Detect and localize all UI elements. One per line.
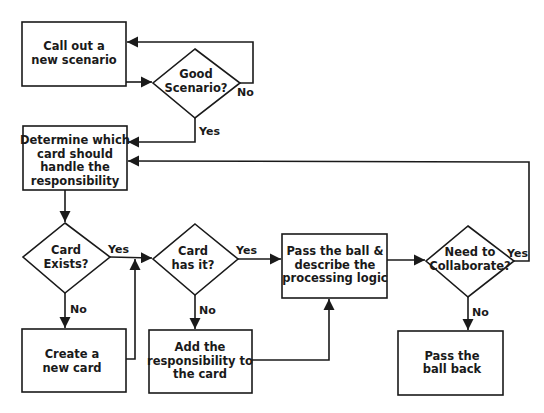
node-label: card should (37, 147, 113, 161)
node-label: Pass the ball & (287, 244, 384, 258)
node-label: Add the (175, 340, 226, 354)
node-card-has-it-decision: Card has it? (153, 224, 238, 295)
edges (65, 42, 529, 360)
node-label: Create a (45, 347, 100, 361)
node-create-card: Create a new card (22, 329, 126, 392)
node-label: Good (179, 67, 212, 81)
node-label: Need to (445, 245, 496, 259)
node-pass-ball-describe: Pass the ball & describe the processing … (282, 234, 388, 298)
node-label: responsibility (31, 174, 120, 188)
node-card-exists-decision: Card Exists? (23, 223, 110, 293)
node-label: Card (178, 244, 208, 258)
node-pass-ball-back: Pass the ball back (398, 331, 503, 395)
node-label: Determine which (20, 133, 130, 147)
edge-label-exists-yes: Yes (107, 243, 129, 256)
node-label: Collaborate? (429, 259, 511, 273)
edge-label-good-yes: Yes (198, 125, 220, 138)
node-call-out-scenario: Call out a new scenario (22, 22, 126, 86)
node-label: Exists? (43, 257, 88, 271)
node-label: processing logic (282, 271, 387, 285)
edge-create-to-has (126, 259, 135, 359)
edge-label-good-no: No (237, 86, 254, 99)
node-label: describe the (295, 258, 376, 272)
node-label: new scenario (31, 53, 117, 67)
node-label: new card (42, 361, 101, 375)
node-label: has it? (172, 258, 215, 272)
edge-add-to-pass (252, 299, 329, 360)
flowchart-canvas: Call out a new scenario Good Scenario? D… (0, 0, 544, 413)
edge-good-yes (128, 118, 195, 142)
edge-label-exists-no: No (70, 303, 87, 316)
node-good-scenario-decision: Good Scenario? (153, 49, 240, 118)
node-need-collaborate-decision: Need to Collaborate? (426, 226, 514, 297)
node-label: ball back (423, 362, 482, 376)
node-label: responsibility to (147, 354, 253, 368)
node-label: Pass the (424, 349, 479, 363)
node-determine-card: Determine which card should handle the r… (20, 126, 130, 190)
node-label: Card (51, 243, 81, 257)
edge-label-has-no: No (199, 304, 216, 317)
edge-exists-yes (110, 257, 152, 258)
edge-label-collab-yes: Yes (506, 247, 528, 260)
edge-label-collab-no: No (472, 306, 489, 319)
node-label: Scenario? (164, 81, 227, 95)
edge-label-has-yes: Yes (235, 244, 257, 257)
node-label: the card (173, 367, 227, 381)
node-label: handle the (40, 160, 110, 174)
node-add-responsibility: Add the responsibility to the card (147, 330, 253, 393)
node-label: Call out a (43, 39, 104, 53)
